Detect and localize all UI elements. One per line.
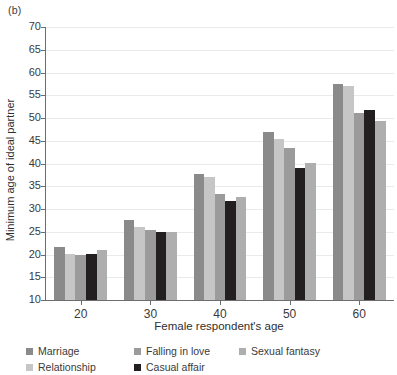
x-axis-title: Female respondent's age: [45, 320, 393, 332]
y-tick-label: 10: [1, 293, 41, 305]
x-tick-label: 20: [51, 307, 111, 321]
y-tick-mark: [41, 164, 46, 165]
x-tick-label: 50: [260, 307, 320, 321]
bar: [236, 197, 247, 300]
x-tick-mark: [150, 300, 151, 305]
y-tick-mark: [41, 95, 46, 96]
bar: [194, 174, 205, 300]
y-tick-mark: [41, 300, 46, 301]
plot-area: 10152025303540455055606570 2030405060 Mi…: [45, 27, 394, 301]
legend-label: Marriage: [38, 345, 79, 357]
legend-swatch-icon: [134, 348, 141, 355]
bar: [343, 86, 354, 300]
bar: [97, 250, 108, 300]
bar: [305, 163, 316, 300]
y-tick-mark: [41, 209, 46, 210]
bar: [156, 232, 167, 300]
x-tick-label: 30: [120, 307, 180, 321]
legend-item-falling-in-love[interactable]: Falling in love: [134, 343, 239, 359]
bar-group: [124, 27, 177, 300]
legend-label: Sexual fantasy: [251, 345, 320, 357]
y-tick-mark: [41, 186, 46, 187]
bar: [284, 148, 295, 300]
bar-group: [263, 27, 316, 300]
bar: [75, 255, 86, 301]
x-tick-mark: [220, 300, 221, 305]
bar-group: [194, 27, 247, 300]
bar: [263, 132, 274, 300]
y-tick-mark: [41, 141, 46, 142]
chart-legend: MarriageFalling in loveSexual fantasyRel…: [26, 343, 366, 375]
y-tick-mark: [41, 255, 46, 256]
legend-label: Relationship: [38, 361, 96, 373]
legend-item-casual-affair[interactable]: Casual affair: [134, 359, 239, 375]
x-tick-mark: [290, 300, 291, 305]
bar: [274, 139, 285, 300]
y-tick-mark: [41, 73, 46, 74]
bar: [145, 230, 156, 300]
bar-group: [54, 27, 107, 300]
legend-item-relationship[interactable]: Relationship: [26, 359, 134, 375]
legend-swatch-icon: [239, 348, 246, 355]
x-tick-mark: [81, 300, 82, 305]
x-tick-label: 60: [329, 307, 389, 321]
y-axis-title: Minimum age of ideal partner: [4, 50, 16, 290]
legend-swatch-icon: [134, 364, 141, 371]
legend-item-marriage[interactable]: Marriage: [26, 343, 134, 359]
x-tick-label: 40: [190, 307, 250, 321]
y-tick-mark: [41, 50, 46, 51]
bar: [333, 84, 344, 300]
bar: [354, 113, 365, 300]
y-tick-mark: [41, 118, 46, 119]
y-tick-mark: [41, 232, 46, 233]
bar: [65, 254, 76, 300]
bar: [54, 247, 65, 300]
bar: [364, 110, 375, 300]
y-tick-mark: [41, 277, 46, 278]
bar: [215, 194, 226, 300]
bar: [124, 220, 135, 300]
bar: [225, 201, 236, 300]
bar: [375, 121, 386, 300]
y-tick-label: 70: [1, 20, 41, 32]
y-tick-mark: [41, 27, 46, 28]
x-tick-mark: [359, 300, 360, 305]
figure-panel-b: (b) 10152025303540455055606570 203040506…: [0, 0, 397, 375]
legend-swatch-icon: [26, 348, 33, 355]
bar-group: [333, 27, 386, 300]
panel-label: (b): [8, 4, 21, 16]
legend-label: Falling in love: [146, 345, 210, 357]
legend-label: Casual affair: [146, 361, 205, 373]
bar: [134, 227, 145, 300]
legend-swatch-icon: [26, 364, 33, 371]
legend-item-sexual-fantasy[interactable]: Sexual fantasy: [239, 343, 366, 359]
bar: [204, 177, 215, 300]
bar: [166, 232, 177, 300]
bar: [295, 168, 306, 300]
bar: [86, 254, 97, 300]
